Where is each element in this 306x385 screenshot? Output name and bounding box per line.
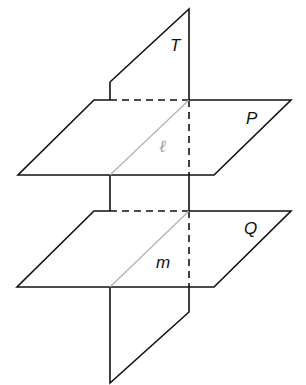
diagram-canvas: T P Q ℓ m bbox=[0, 0, 306, 385]
label-line-l: ℓ bbox=[159, 136, 166, 156]
plane-p-top-left-edge bbox=[18, 100, 110, 175]
label-line-m: m bbox=[156, 253, 170, 272]
label-plane-t: T bbox=[170, 36, 182, 55]
plane-p-right-edges bbox=[110, 100, 291, 175]
plane-t-lower bbox=[110, 287, 189, 383]
plane-q-right-edges bbox=[110, 211, 291, 287]
plane-q-top-left-edge bbox=[17, 211, 110, 287]
label-plane-p: P bbox=[246, 109, 258, 128]
label-plane-q: Q bbox=[244, 219, 257, 238]
line-m bbox=[110, 211, 189, 287]
plane-t-middle bbox=[110, 175, 189, 211]
line-l bbox=[110, 100, 189, 175]
